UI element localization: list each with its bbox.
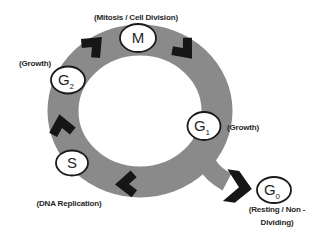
annotation-g1: (Growth) (227, 123, 260, 132)
phase-letter-m: M (132, 29, 145, 46)
cell-cycle-diagram: M G2 S G1 G0 (Mitosis / Cell Division) (… (0, 0, 320, 246)
phase-letter-s: S (67, 154, 77, 171)
phase-letter-g2-sub: 2 (70, 82, 75, 91)
phase-letter-g2-main: G (58, 71, 70, 88)
phase-letter-g1-sub: 1 (206, 128, 211, 137)
annotation-g2: (Growth) (19, 59, 52, 68)
phase-letter-g1-main: G (194, 117, 206, 134)
annotation-g0-line1: (Resting / Non - (249, 205, 306, 214)
phase-letter-s-main: S (67, 154, 77, 171)
annotation-g0-line2: Dividing) (261, 218, 294, 227)
phase-letter-g0-main: G (264, 181, 276, 198)
phase-letter-g0-sub: 0 (276, 192, 281, 201)
diagram-canvas: M G2 S G1 G0 (Mitosis / Cell Division) (… (0, 0, 320, 246)
annotation-s: (DNA Replication) (36, 199, 102, 208)
annotation-m: (Mitosis / Cell Division) (94, 13, 178, 22)
phase-letter-m-main: M (132, 29, 145, 46)
